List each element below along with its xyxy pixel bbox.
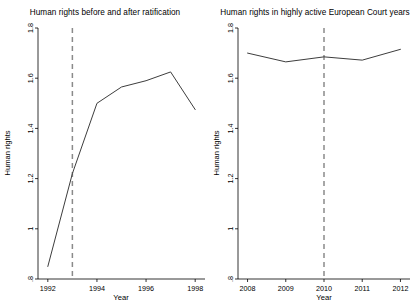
left-y-tick-label: 1.4 — [26, 123, 35, 133]
right-y-tick-label: 1.6 — [226, 73, 235, 83]
left-x-axis-title: Year — [113, 293, 129, 302]
left-series-line — [48, 72, 195, 267]
left-x-tick-label: 1998 — [187, 284, 203, 293]
right-x-tick-label: 2011 — [354, 284, 369, 293]
left-y-axis-title: Human rights — [3, 130, 12, 175]
right-y-tick-label: 1.4 — [226, 123, 235, 133]
right-x-tick-label: 2008 — [240, 284, 256, 293]
left-x-tick-label: 1994 — [89, 284, 105, 293]
chart-panel-right: Human rights in highly active European C… — [210, 0, 420, 306]
right-x-axis-title: Year — [316, 293, 332, 302]
right-x-tick-label: 2010 — [316, 284, 332, 293]
left-y-tick-label: 1.6 — [26, 73, 35, 83]
right-y-axis-title: Human rights — [212, 130, 221, 175]
left-y-tick-label: 1.2 — [26, 174, 35, 184]
left-y-tick-label: 1 — [26, 227, 35, 231]
left-y-ticks-group: .811.21.41.61.8 — [26, 23, 38, 282]
right-y-tick-label: 1.2 — [226, 174, 235, 184]
right-x-tick-label: 2009 — [278, 284, 294, 293]
chart-panel-left: Human rights before and after ratificati… — [0, 0, 210, 306]
left-x-tick-label: 1992 — [40, 284, 56, 293]
right-y-ticks-group: .811.21.41.61.8 — [226, 23, 238, 282]
left-axes-group — [38, 28, 205, 279]
left-x-tick-label: 1996 — [138, 284, 154, 293]
chart-plot-right: .811.21.41.61.8 20082009201020112012 Yea… — [210, 0, 420, 306]
right-y-tick-label: 1 — [226, 227, 235, 231]
chart-plot-left: .811.21.41.61.8 1992199419961998 Year Hu… — [0, 0, 210, 306]
left-y-tick-label: 1.8 — [26, 23, 35, 33]
right-x-tick-label: 2012 — [392, 284, 408, 293]
right-x-ticks-group: 20082009201020112012 — [240, 279, 409, 293]
left-y-tick-label: .8 — [26, 276, 35, 282]
right-y-tick-label: 1.8 — [226, 23, 235, 33]
left-x-ticks-group: 1992199419961998 — [40, 279, 203, 293]
figure-container: Human rights before and after ratificati… — [0, 0, 420, 306]
right-y-tick-label: .8 — [226, 276, 235, 282]
